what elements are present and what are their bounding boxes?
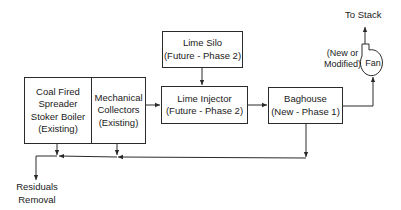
lime-injector-line-2: (Future - Phase 2)	[166, 105, 243, 118]
fan-note-line-1: (New or	[324, 48, 361, 59]
lime-silo-line-1: Lime Silo	[183, 37, 222, 50]
residuals-removal-label: Residuals Removal	[14, 181, 60, 206]
boiler-line-4: (Existing)	[38, 123, 78, 136]
mechanical-line-1: Mechanical	[94, 92, 142, 105]
lime-silo-node: Lime Silo (Future - Phase 2)	[162, 31, 243, 68]
lime-silo-line-2: (Future - Phase 2)	[164, 50, 241, 63]
arrow-to-residuals	[36, 156, 57, 180]
boiler-node: Coal Fired Spreader Stoker Boiler (Exist…	[24, 77, 92, 144]
lime-injector-line-1: Lime Injector	[177, 93, 231, 106]
residuals-line-2: Removal	[14, 194, 60, 207]
arrow-collector-mid	[59, 156, 117, 157]
boiler-line-2: Spreader	[38, 98, 77, 111]
fan-note: (New or Modified)	[324, 48, 361, 70]
arrow-collector-right	[118, 157, 306, 158]
baghouse-line-1: Baghouse	[284, 93, 327, 106]
arrow-baghouse-to-fan	[342, 77, 373, 106]
baghouse-node: Baghouse (New - Phase 1)	[268, 87, 343, 124]
baghouse-line-2: (New - Phase 1)	[271, 106, 340, 119]
mechanical-collectors-node: Mechanical Collectors (Existing)	[91, 77, 146, 144]
to-stack-label: To Stack	[345, 9, 381, 22]
fan-note-line-2: Modified)	[324, 59, 361, 70]
fan-label: Fan	[362, 58, 384, 68]
boiler-line-3: Stoker Boiler	[31, 111, 85, 124]
boiler-line-1: Coal Fired	[36, 86, 80, 99]
lime-injector-node: Lime Injector (Future - Phase 2)	[161, 86, 248, 124]
residuals-line-1: Residuals	[14, 181, 60, 194]
mechanical-line-2: Collectors	[97, 104, 139, 117]
process-flow-diagram: Coal Fired Spreader Stoker Boiler (Exist…	[0, 0, 401, 210]
mechanical-line-3: (Existing)	[99, 117, 139, 130]
